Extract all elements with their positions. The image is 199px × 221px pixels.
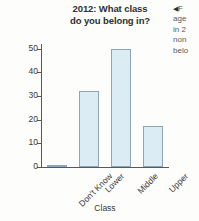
y-tick-label: 50 xyxy=(29,43,38,54)
chart-figure: 2012: What class do you belong in? ◀F ag… xyxy=(0,0,199,221)
y-tick-label: 10 xyxy=(29,137,38,148)
x-axis-tick-labels: Don't KnowLowerMiddleUpper xyxy=(41,171,169,201)
bar-lower xyxy=(79,91,99,167)
x-tick-label-middle: Middle xyxy=(135,171,160,196)
chart-title-line-1: 2012: What class xyxy=(48,3,172,15)
y-tick-label: 0 xyxy=(33,161,38,172)
x-axis-line xyxy=(41,167,169,168)
x-tick-label-upper: Upper xyxy=(167,171,190,194)
bar-don-t-know xyxy=(47,165,67,167)
y-tick-label: 40 xyxy=(29,66,38,77)
y-tick-label: 30 xyxy=(29,90,38,101)
x-axis-title: Class xyxy=(41,203,169,213)
side-caption-line-1: ◀F xyxy=(173,4,199,14)
chart-title-line-2: do you belong in? xyxy=(48,15,172,27)
side-caption-text-1: F xyxy=(178,4,183,13)
plot-area: 01020304050 xyxy=(41,44,169,168)
side-caption: ◀F age in 2 non belo xyxy=(173,4,199,56)
bar-middle xyxy=(111,49,131,167)
y-axis-line xyxy=(41,44,42,168)
side-caption-line-5: belo xyxy=(173,46,199,56)
chart-title: 2012: What class do you belong in? xyxy=(48,3,172,26)
side-caption-line-3: in 2 xyxy=(173,25,199,35)
side-caption-line-2: age xyxy=(173,14,199,24)
bar-upper xyxy=(143,126,163,167)
side-caption-line-4: non xyxy=(173,35,199,45)
y-tick-label: 20 xyxy=(29,114,38,125)
